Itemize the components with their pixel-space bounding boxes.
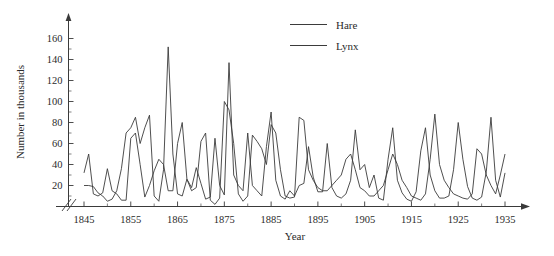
y-axis-arrowhead (66, 13, 72, 21)
y-tick-label: 160 (47, 33, 63, 44)
x-axis-arrowhead (521, 203, 530, 209)
series-line-hare (84, 63, 505, 202)
legend-label-hare: Hare (336, 19, 357, 31)
x-axis-title: Year (285, 230, 306, 242)
x-tick-label: 1865 (167, 214, 188, 225)
y-tick-label: 120 (47, 75, 63, 86)
chart-canvas: 20406080100120140160 1845185518651875188… (0, 0, 554, 256)
series-line-lynx (84, 47, 505, 205)
data-series-group (84, 47, 505, 205)
y-tick-label: 40 (52, 159, 63, 170)
x-tick-label: 1905 (354, 214, 375, 225)
y-axis (66, 13, 72, 206)
y-tick-label: 60 (52, 138, 63, 149)
x-tick-label: 1935 (495, 214, 516, 225)
x-tick-label: 1925 (448, 214, 469, 225)
x-tick-label: 1845 (74, 214, 95, 225)
x-tick-label: 1875 (214, 214, 235, 225)
lynx-hare-population-chart: 20406080100120140160 1845185518651875188… (0, 0, 554, 256)
x-tick-label: 1855 (120, 214, 141, 225)
y-tick-label: 100 (47, 96, 63, 107)
x-tick-label: 1895 (307, 214, 328, 225)
y-tick-label: 20 (52, 180, 63, 191)
x-axis (56, 203, 530, 209)
x-tick-label: 1915 (401, 214, 422, 225)
y-axis-title: Number in thousands (14, 65, 26, 159)
y-tick-label: 140 (47, 54, 63, 65)
legend-label-lynx: Lynx (336, 40, 359, 52)
chart-legend: Hare Lynx (290, 19, 359, 52)
y-tick-label: 80 (52, 117, 63, 128)
x-tick-label: 1885 (261, 214, 282, 225)
